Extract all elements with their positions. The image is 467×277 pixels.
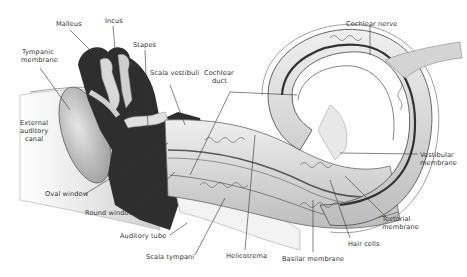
label-helicotrema: Helicotrema: [226, 252, 267, 260]
label-scala-tympani: Scala tympani: [146, 253, 194, 261]
label-cochlear-duct-1: Cochlear: [204, 69, 234, 77]
label-tectorial-membrane-1: Tectorial: [382, 215, 411, 223]
label-hair-cells: Hair cells: [348, 240, 379, 248]
label-malleus: Malleus: [56, 20, 82, 28]
label-vestibular-membrane-1: Vestibular: [420, 151, 454, 159]
label-round-window: Round window: [85, 209, 134, 217]
label-external-auditory-canal-3: canal: [25, 135, 43, 143]
label-auditory-tube: Auditory tube: [120, 232, 166, 240]
label-basilar-membrane: Basilar membrane: [282, 255, 344, 263]
ear-cochlea-illustration: [0, 0, 467, 277]
label-scala-vestibuli: Scala vestibuli: [150, 69, 199, 77]
label-vestibular-membrane-2: membrane: [420, 159, 457, 167]
label-stapes: Stapes: [133, 41, 156, 49]
label-tectorial-membrane-2: membrane: [382, 223, 419, 231]
label-cochlear-duct-2: duct: [212, 77, 227, 85]
label-external-auditory-canal-2: auditory: [20, 127, 48, 135]
label-cochlear-nerve: Cochlear nerve: [346, 20, 397, 28]
label-tympanic-membrane-1: Tympanic: [22, 48, 54, 56]
label-incus: Incus: [105, 17, 123, 25]
label-external-auditory-canal-1: External: [20, 119, 48, 127]
label-oval-window: Oval window: [45, 190, 88, 198]
label-tympanic-membrane-2: membrane: [21, 56, 58, 64]
